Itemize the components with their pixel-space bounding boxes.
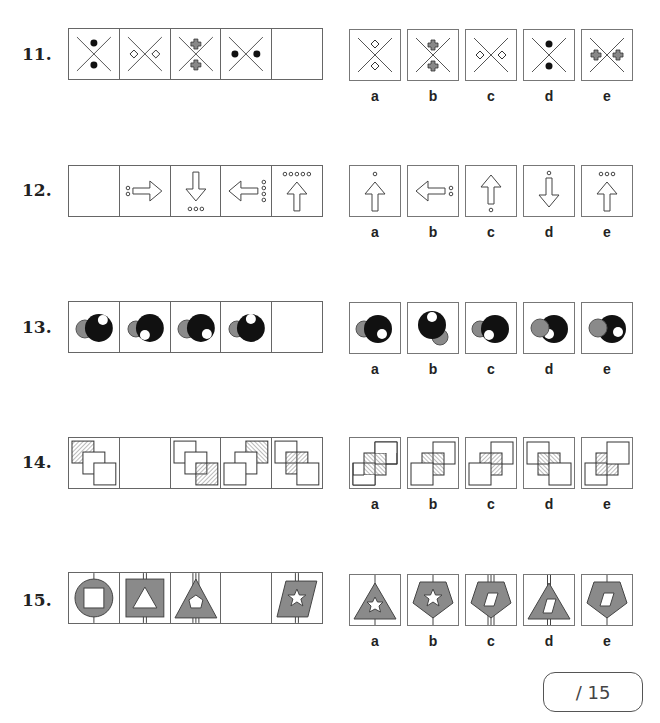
seq-cell-square-triangle [120,573,171,623]
seq-cell-blank [120,438,171,488]
score-label: / 15 [576,682,611,703]
seq-cell-parallelogram-star [272,573,322,623]
option-label: d [545,496,554,512]
seq-cell-squares [171,438,222,488]
seq-cell-circle-square [69,573,120,623]
option-e[interactable]: e [581,574,633,649]
option-label: b [429,496,438,512]
question-14-sequence [68,437,323,489]
question-14-options: a b c d e [349,437,633,512]
option-a[interactable]: a [349,437,401,512]
question-number-15: 15. [22,590,66,610]
option-e[interactable]: e [581,437,633,512]
seq-cell-blank [221,573,272,623]
option-label: a [371,496,379,512]
option-label: b [429,633,438,649]
question-15-sequence [68,572,323,624]
option-b[interactable]: b [407,437,459,512]
option-label: c [487,496,495,512]
option-label: d [545,633,554,649]
option-label: c [487,633,495,649]
seq-cell-squares [272,438,322,488]
option-label: a [371,633,379,649]
question-number-14: 14. [22,452,66,472]
option-d[interactable]: d [523,437,575,512]
seq-cell-squares [69,438,120,488]
option-d[interactable]: d [523,574,575,649]
option-a[interactable]: a [349,574,401,649]
question-15-options: a b c d e [349,574,633,649]
option-c[interactable]: c [465,437,517,512]
option-c[interactable]: c [465,574,517,649]
seq-cell-squares [221,438,272,488]
option-label: e [603,633,611,649]
seq-cell-triangle-pentagon [171,573,222,623]
option-b[interactable]: b [407,574,459,649]
score-box: / 15 [543,672,643,712]
option-label: e [603,496,611,512]
